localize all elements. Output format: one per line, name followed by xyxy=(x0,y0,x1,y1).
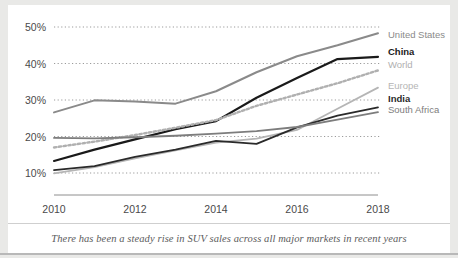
legend-label-china: China xyxy=(388,46,415,57)
series-line xyxy=(54,70,378,147)
legend-label-south-africa: South Africa xyxy=(388,104,440,115)
bottom-rule xyxy=(0,253,458,255)
series-line xyxy=(54,33,378,112)
chart-legend: United StatesChinaWorldEuropeIndiaSouth … xyxy=(388,29,445,115)
y-tick-label: 40% xyxy=(25,58,46,70)
chart-figure: 10%20%30%40%50% United StatesChinaWorldE… xyxy=(8,5,450,253)
plot-area: 10%20%30%40%50% United StatesChinaWorldE… xyxy=(8,5,450,223)
y-tick-label: 30% xyxy=(25,94,46,106)
y-tick-label: 20% xyxy=(25,131,46,143)
y-tick-label: 10% xyxy=(25,167,46,179)
y-axis-tick-labels: 10%20%30%40%50% xyxy=(25,21,46,179)
legend-label-united-states: United States xyxy=(388,29,445,40)
x-tick-label: 2016 xyxy=(285,203,309,215)
x-tick-label: 2018 xyxy=(366,203,390,215)
x-tick-label: 2012 xyxy=(123,203,147,215)
series-line xyxy=(54,57,378,161)
x-tick-label: 2010 xyxy=(42,203,66,215)
x-axis-tick-labels: 20102012201420162018 xyxy=(42,203,390,215)
legend-label-europe: Europe xyxy=(388,80,419,91)
series-line xyxy=(54,112,378,138)
legend-label-world: World xyxy=(388,59,413,70)
series-lines xyxy=(54,33,378,173)
y-tick-label: 50% xyxy=(25,21,46,33)
x-tick-label: 2014 xyxy=(204,203,228,215)
line-chart-svg: 10%20%30%40%50% United StatesChinaWorldE… xyxy=(8,5,450,223)
chart-caption: There has been a steady rise in SUV sale… xyxy=(51,233,406,244)
caption-bar: There has been a steady rise in SUV sale… xyxy=(8,223,450,253)
legend-label-india: India xyxy=(388,93,411,104)
